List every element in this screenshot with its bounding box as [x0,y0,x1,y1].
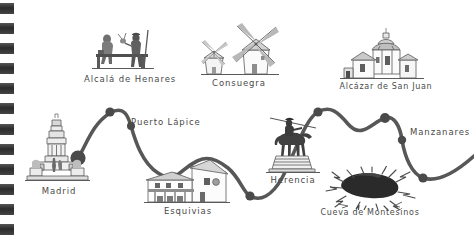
quixote-sancho-bench-statue-icon [86,28,162,78]
church-icon [336,26,432,88]
casa-museo-cervantes-icon [142,158,234,210]
landmark-label-manzanares[interactable]: Manzanares [410,127,472,137]
landmark-label-alcazar-de-san-juan: Alcázar de San Juan [334,82,438,91]
landmark-esquivias[interactable]: Esquivias [142,158,234,210]
landmark-label-cueva-de-montesinos: Cueva de Montesinos [320,208,420,217]
sketchbook-page: Madrid [0,0,474,241]
landmark-label-consuegra: Consuegra [205,78,273,88]
landmark-alcala-de-henares[interactable]: Alcalá de Henares [86,28,162,78]
landmark-label-esquivias: Esquivias [156,206,220,216]
landmark-consuegra[interactable]: Consuegra [197,22,283,84]
landmark-madrid[interactable]: Madrid [22,112,94,188]
cave-mouth-icon [318,166,422,210]
landmark-label-puerto-lapice[interactable]: Puerto Lápice [131,117,201,127]
landmark-alcazar-de-san-juan[interactable]: Alcázar de San Juan [336,26,432,88]
landmark-label-alcala-de-henares: Alcalá de Henares [84,74,166,84]
landmark-cueva-de-montesinos[interactable]: Cueva de Montesinos [318,166,422,210]
route-node-herencia[interactable] [245,191,254,200]
landmark-label-madrid: Madrid [36,186,82,196]
landmark-label-herencia: Herencia [261,175,325,185]
landmark-herencia[interactable]: Herencia [262,112,324,174]
route-node-manzanares[interactable] [398,136,406,144]
route-node-peak-1[interactable] [105,107,114,116]
cervantes-monument-icon [22,112,94,188]
windmills-icon [197,22,283,84]
quixote-equestrian-statue-icon [262,112,324,174]
route-node-peak-3[interactable] [380,113,390,123]
